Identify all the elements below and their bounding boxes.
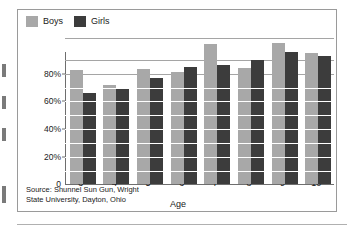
y-tick-label-40: 40% — [44, 124, 61, 134]
bar-boys-age-10 — [305, 53, 318, 184]
bar-girls-age-4 — [116, 88, 129, 184]
edge-mark — [2, 96, 6, 109]
bar-group-age-8 — [234, 28, 268, 184]
source-line-2: State University, Dayton, Ohio — [26, 195, 139, 205]
gridline-60 — [65, 101, 334, 102]
y-tick-label-20: 20% — [44, 152, 61, 162]
edge-mark — [2, 64, 6, 77]
bar-group-age-7 — [201, 28, 235, 184]
gridline-70 — [65, 88, 334, 89]
gridline-30 — [65, 143, 334, 144]
bar-girls-age-8 — [251, 60, 264, 184]
bar-boys-age-5 — [137, 69, 150, 184]
gridline-20 — [65, 157, 334, 158]
legend-label-girls: Girls — [91, 16, 110, 27]
bar-group-age-3 — [66, 28, 100, 184]
legend-swatch-girls-icon — [74, 16, 86, 27]
page-edge-artifacts — [0, 0, 14, 234]
chart-figure-frame: Boys Girls 80% 60% 40% 20% 0 Age — [17, 9, 337, 212]
bar-boys-age-9 — [272, 43, 285, 184]
bar-boys-age-8 — [238, 68, 251, 184]
y-tick-label-80: 80% — [44, 69, 61, 79]
bar-girls-age-10 — [318, 56, 331, 184]
edge-mark — [2, 128, 6, 141]
plot-area: 80% 60% 40% 20% 0 — [65, 52, 334, 184]
bar-girls-age-7 — [217, 65, 230, 184]
gridline-50 — [65, 115, 334, 116]
bar-girls-age-6 — [184, 67, 197, 184]
bar-group-age-6 — [167, 28, 201, 184]
bar-group-age-9 — [268, 28, 302, 184]
bar-girls-age-5 — [150, 78, 163, 184]
legend-entry-girls: Girls — [74, 16, 110, 27]
bar-girls-age-9 — [285, 52, 298, 184]
gridline-40 — [65, 129, 334, 130]
chart-legend: Boys Girls — [26, 16, 110, 27]
bar-group-age-10 — [301, 28, 335, 184]
bar-group-age-5 — [133, 28, 167, 184]
bar-group-age-4 — [100, 28, 134, 184]
bar-boys-age-4 — [103, 85, 116, 184]
legend-entry-boys: Boys — [26, 16, 63, 27]
legend-label-boys: Boys — [43, 16, 63, 27]
gridline-10 — [65, 171, 334, 172]
y-tick-label-60: 60% — [44, 96, 61, 106]
bar-groups — [66, 28, 334, 184]
bar-boys-age-6 — [171, 72, 184, 184]
page-bottom-rule — [17, 224, 347, 225]
edge-mark — [2, 186, 6, 203]
legend-swatch-boys-icon — [26, 16, 38, 27]
